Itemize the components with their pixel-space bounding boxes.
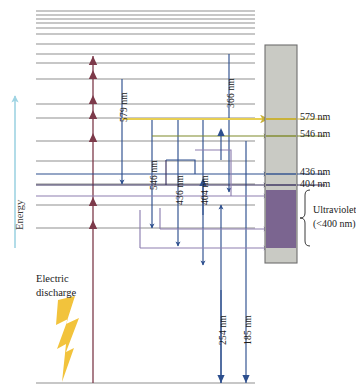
energy-axis-label: Energy (14, 200, 25, 230)
transition-254 (217, 205, 224, 383)
spectrum-bar (265, 45, 297, 263)
ultraviolet-bracket (300, 190, 310, 246)
spectrum-label-436: 436 nm (300, 167, 330, 178)
transition-label-254: 254 nm (219, 315, 229, 345)
electric-discharge-line1: Electric (36, 272, 76, 286)
spectrum-label-404: 404 nm (300, 179, 330, 190)
lightning-bolt-icon (56, 296, 79, 382)
energy-level-diagram: Energy 579 nm 546 nm 436 nm 404 nm 366 n… (0, 0, 356, 392)
transition-label-436: 436 nm (176, 175, 186, 205)
transition-185 (242, 141, 249, 383)
ultraviolet-label: Ultraviolet (<400 nm) (313, 203, 356, 231)
ultraviolet-label-line2: (<400 nm) (313, 217, 356, 231)
transition-label-185: 185 nm (244, 315, 254, 345)
spectrum-label-579: 579 nm (300, 112, 330, 123)
electric-discharge-line2: discharge (36, 286, 76, 300)
electric-discharge-label: Electric discharge (36, 272, 76, 300)
transition-label-546: 546 nm (150, 160, 160, 190)
excitation-arrow (89, 56, 97, 383)
transition-label-404: 404 nm (201, 175, 211, 205)
transition-label-579: 579 nm (120, 92, 130, 122)
ultraviolet-label-line1: Ultraviolet (313, 203, 356, 217)
spectrum-label-546: 546 nm (300, 129, 330, 140)
transition-label-366: 366 nm (227, 78, 237, 108)
